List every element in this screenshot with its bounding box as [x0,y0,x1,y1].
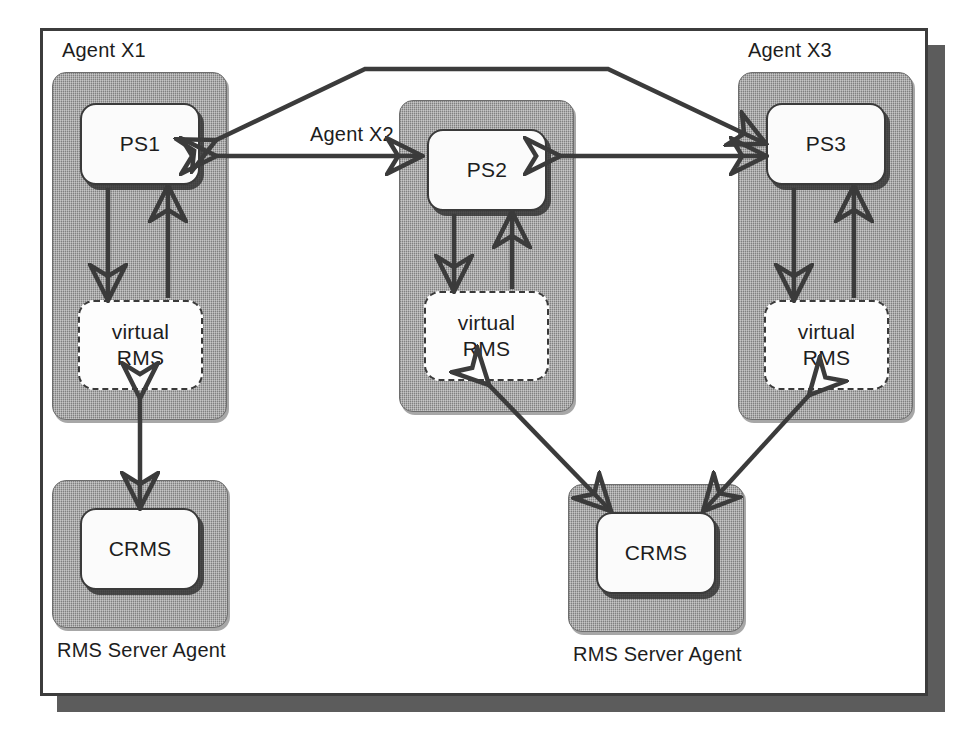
node-crms-left[interactable]: CRMS [80,508,200,590]
node-virtual-rms-1-label-line2: RMS [117,345,164,371]
node-virtual-rms-2-label-line1: virtual [458,310,515,336]
node-virtual-rms-3[interactable]: virtual RMS [764,300,889,390]
node-ps3-label: PS3 [806,131,846,157]
agent-x2-label: Agent X2 [310,124,394,144]
node-ps2-label: PS2 [467,157,507,183]
agent-x1-label: Agent X1 [62,40,146,60]
node-crms-left-label: CRMS [109,536,172,562]
node-crms-right-label: CRMS [625,540,688,566]
node-ps1-label: PS1 [120,131,160,157]
node-ps2[interactable]: PS2 [427,129,547,211]
node-virtual-rms-2-label-line2: RMS [463,336,510,362]
node-virtual-rms-1-label-line1: virtual [112,319,169,345]
frame-shadow-bottom [57,695,945,712]
node-virtual-rms-3-label-line1: virtual [798,319,855,345]
node-ps1[interactable]: PS1 [80,103,200,185]
node-crms-right[interactable]: CRMS [596,512,716,594]
agent-x3-label: Agent X3 [748,40,832,60]
rms-server-agent-left-label: RMS Server Agent [57,640,226,660]
diagram-canvas: Agent X1 PS1 virtual RMS Agent X2 PS2 vi… [0,0,971,745]
node-virtual-rms-2[interactable]: virtual RMS [424,291,549,381]
node-virtual-rms-3-label-line2: RMS [803,345,850,371]
rms-server-agent-right-label: RMS Server Agent [573,644,742,664]
node-virtual-rms-1[interactable]: virtual RMS [78,300,203,390]
frame-shadow-right [928,45,945,712]
node-ps3[interactable]: PS3 [766,103,886,185]
